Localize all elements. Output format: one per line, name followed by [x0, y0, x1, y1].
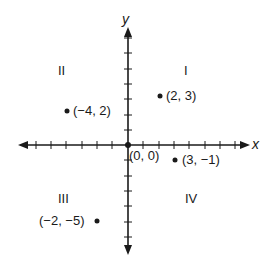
point-label-q3: (−2, −5): [39, 214, 85, 227]
quadrant-label-iii: III: [58, 192, 69, 205]
point-q3-dot: [95, 219, 100, 224]
point-q2-dot: [65, 109, 70, 114]
x-axis-label: x: [252, 137, 259, 151]
point-label-q1: (2, 3): [166, 89, 196, 102]
point-label-q2: (−4, 2): [73, 104, 111, 117]
x-axis-left-arrow-icon: [18, 141, 28, 149]
point-label-q4: (3, −1): [182, 153, 220, 166]
origin-label: (0, 0): [129, 149, 159, 162]
quadrant-label-ii: II: [58, 64, 65, 77]
y-axis-up-arrow-icon: [124, 27, 132, 37]
coordinate-plane: y x (0, 0) I II III IV (2, 3) (−4, 2) (3…: [0, 0, 266, 261]
x-axis-right-arrow-icon: [240, 141, 250, 149]
point-q4-dot: [173, 158, 178, 163]
quadrant-label-i: I: [184, 64, 188, 77]
quadrant-label-iv: IV: [185, 192, 197, 205]
y-axis-down-arrow-icon: [124, 245, 132, 255]
y-axis-label: y: [122, 12, 129, 26]
point-q1-dot: [158, 94, 163, 99]
